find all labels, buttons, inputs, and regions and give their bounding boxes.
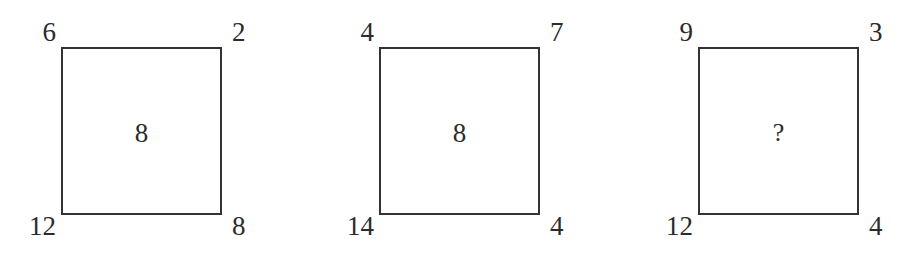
- square-2-center-value: 8: [318, 120, 618, 147]
- square-3-corner-top-left: 9: [680, 19, 694, 46]
- square-1-corner-bottom-right: 8: [232, 213, 246, 240]
- square-3-center-unknown: ?: [637, 120, 920, 146]
- square-2-corner-bottom-left: 14: [347, 213, 374, 240]
- square-2-corner-top-right: 7: [550, 19, 564, 46]
- square-1-corner-top-right: 2: [232, 19, 246, 46]
- square-3-corner-bottom-left: 12: [666, 213, 693, 240]
- square-1-corner-bottom-left: 12: [29, 213, 56, 240]
- square-3-corner-bottom-right: 4: [869, 213, 883, 240]
- puzzle-square-3: 9 3 ? 12 4: [637, 0, 920, 255]
- square-2-corner-top-left: 4: [361, 19, 375, 46]
- puzzle-square-2: 4 7 8 14 4: [318, 0, 618, 255]
- square-2-corner-bottom-right: 4: [550, 213, 564, 240]
- square-1-center-value: 8: [0, 120, 300, 147]
- puzzle-square-1: 6 2 8 12 8: [0, 0, 300, 255]
- square-3-corner-top-right: 3: [869, 19, 883, 46]
- square-1-corner-top-left: 6: [43, 19, 57, 46]
- puzzle-canvas: 6 2 8 12 8 4 7 8 14 4 9 3 ? 12 4: [0, 0, 920, 255]
